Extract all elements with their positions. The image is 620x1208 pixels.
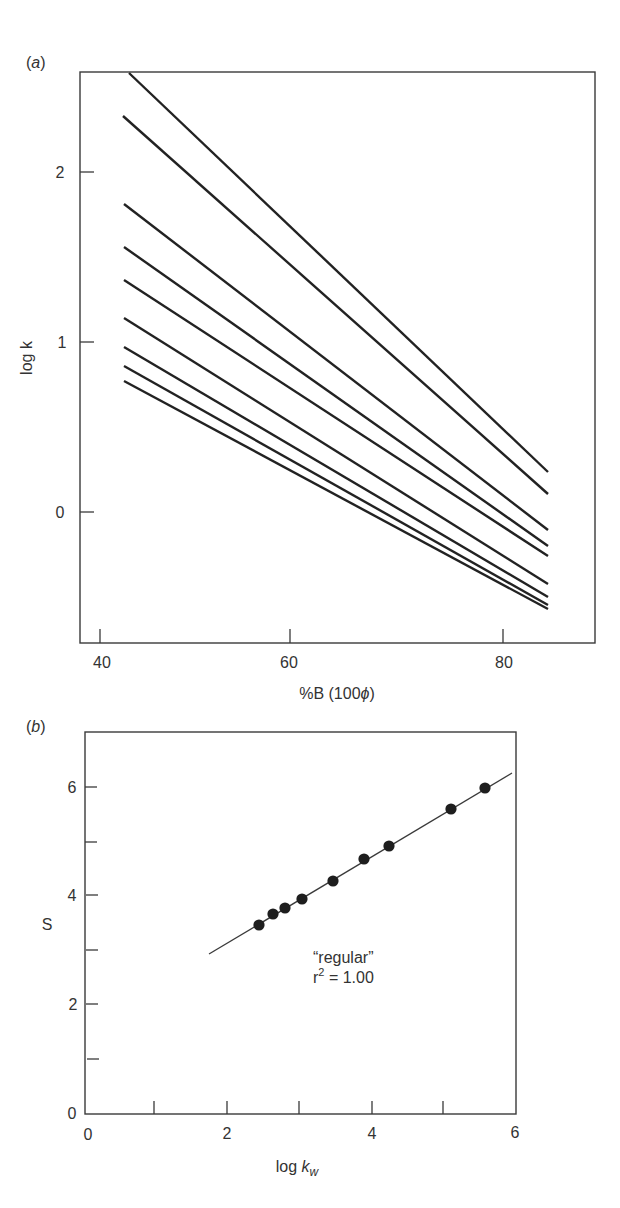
panel-b-plot-frame xyxy=(85,732,516,1114)
data-point xyxy=(327,875,338,886)
y-tick-label-0: 0 xyxy=(68,1105,77,1122)
series-line-2 xyxy=(123,116,548,494)
panel-b-x-axis: 0 2 4 6 log kw xyxy=(84,1101,520,1179)
data-point xyxy=(267,908,278,919)
series-line-9 xyxy=(124,381,548,609)
panel-b-label: (b) xyxy=(26,718,46,735)
data-point xyxy=(358,853,369,864)
panel-a-y-axis: 0 1 2 log k xyxy=(18,164,94,521)
x-tick-label-0: 0 xyxy=(84,1126,93,1143)
data-point xyxy=(383,840,394,851)
data-point xyxy=(445,803,456,814)
series-line-3 xyxy=(124,204,548,530)
annotation-regular: “regular” xyxy=(313,949,373,966)
data-point xyxy=(253,919,264,930)
x-tick-label-4: 4 xyxy=(368,1125,377,1142)
x-tick-label-60: 60 xyxy=(280,654,298,671)
panel-a-x-axis: 40 60 80 %B (100ϕ) xyxy=(93,629,513,702)
y-tick-label-6: 6 xyxy=(68,779,77,796)
y-tick-label-4: 4 xyxy=(68,887,77,904)
y-axis-title: log k xyxy=(18,340,35,375)
annotation-r-squared: r2 = 1.00 xyxy=(313,966,374,986)
panel-a: (a) 0 1 2 log k 40 60 80 %B (100ϕ) xyxy=(18,54,595,702)
panel-a-label: (a) xyxy=(26,54,46,71)
y-tick-label-0: 0 xyxy=(56,504,65,521)
panel-a-plot-frame xyxy=(80,72,595,643)
series-line-4 xyxy=(124,247,548,546)
series-line-8 xyxy=(124,366,548,605)
fit-annotation: “regular” r2 = 1.00 xyxy=(313,949,374,986)
x-tick-label-6: 6 xyxy=(511,1124,520,1141)
y-tick-label-2: 2 xyxy=(56,164,65,181)
x-axis-title: %B (100ϕ) xyxy=(299,685,375,702)
x-tick-label-40: 40 xyxy=(93,654,111,671)
series-line-5 xyxy=(124,280,548,556)
y-tick-label-2: 2 xyxy=(69,996,78,1013)
data-point xyxy=(279,902,290,913)
series-line-7 xyxy=(124,347,548,597)
panel-b: (b) 6 4 2 0 S 0 2 4 6 log kw xyxy=(26,718,520,1179)
panel-a-series xyxy=(123,73,548,609)
y-tick-label-1: 1 xyxy=(58,334,67,351)
panel-b-y-axis: 6 4 2 0 S xyxy=(42,779,99,1122)
data-point xyxy=(479,782,490,793)
x-tick-label-80: 80 xyxy=(495,654,513,671)
figure: (a) 0 1 2 log k 40 60 80 %B (100ϕ) xyxy=(0,0,620,1208)
series-line-6 xyxy=(124,318,548,584)
y-axis-title: S xyxy=(42,916,53,933)
series-line-1 xyxy=(129,73,548,472)
data-point xyxy=(296,893,307,904)
x-tick-label-2: 2 xyxy=(223,1125,232,1142)
x-axis-title: log kw xyxy=(276,1158,320,1179)
